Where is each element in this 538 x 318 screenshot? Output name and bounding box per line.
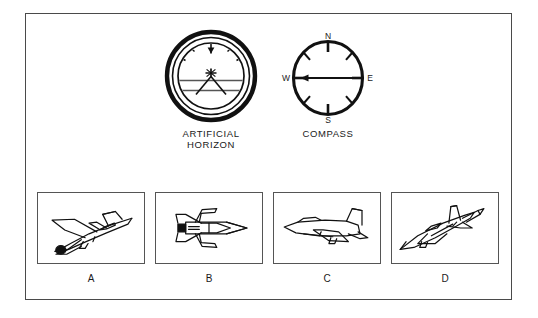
- aircraft-banked-descending-icon: [38, 193, 144, 263]
- aircraft-side-view-left-icon: [274, 193, 380, 263]
- aircraft-plan-view-icon: [156, 193, 262, 263]
- compass-icon: N S E W: [280, 28, 376, 124]
- compass-south-label: S: [325, 115, 331, 124]
- photo-cell-c: C: [273, 192, 381, 284]
- photo-cell-b: B: [155, 192, 263, 284]
- photo-box-d[interactable]: [391, 192, 499, 264]
- photo-label-b: B: [155, 273, 263, 284]
- compass-instrument: N S E W COMPASS: [273, 28, 383, 139]
- aircraft-photo-row: A: [26, 192, 511, 300]
- artificial-horizon-icon: [163, 28, 259, 124]
- compass-label: COMPASS: [273, 128, 383, 139]
- compass-north-label: N: [325, 31, 331, 41]
- instruments-row: ARTIFICIAL HORIZON N: [26, 14, 511, 182]
- aircraft-climbing-left-icon: [392, 193, 498, 263]
- photo-box-a[interactable]: [37, 192, 145, 264]
- compass-east-label: E: [367, 73, 373, 83]
- photo-label-c: C: [273, 273, 381, 284]
- photo-cell-d: D: [391, 192, 499, 284]
- photo-label-a: A: [37, 273, 145, 284]
- compass-west-label: W: [282, 73, 290, 83]
- photo-box-b[interactable]: [155, 192, 263, 264]
- figure-frame: ARTIFICIAL HORIZON N: [25, 13, 512, 300]
- photo-label-d: D: [391, 273, 499, 284]
- artificial-horizon-label: ARTIFICIAL HORIZON: [156, 128, 266, 150]
- photo-box-c[interactable]: [273, 192, 381, 264]
- photo-cell-a: A: [37, 192, 145, 284]
- artificial-horizon-instrument: ARTIFICIAL HORIZON: [156, 28, 266, 150]
